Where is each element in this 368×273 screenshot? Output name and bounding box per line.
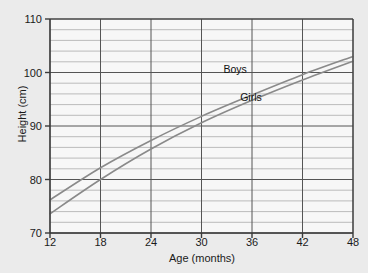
series-label-boys: Boys [223, 63, 246, 75]
x-tick-label: 24 [136, 236, 166, 248]
x-tick-label: 36 [237, 236, 267, 248]
x-tick-label: 12 [35, 236, 65, 248]
x-tick-label: 30 [187, 236, 217, 248]
plot-area [0, 0, 368, 273]
x-tick-label: 18 [86, 236, 116, 248]
x-tick-label: 42 [288, 236, 318, 248]
growth-chart: Height (cm) 708090100110 12182430364248 … [0, 0, 368, 273]
series-label-girls: Girls [240, 91, 262, 103]
x-tick-label: 48 [338, 236, 368, 248]
x-axis-title: Age (months) [50, 252, 354, 264]
